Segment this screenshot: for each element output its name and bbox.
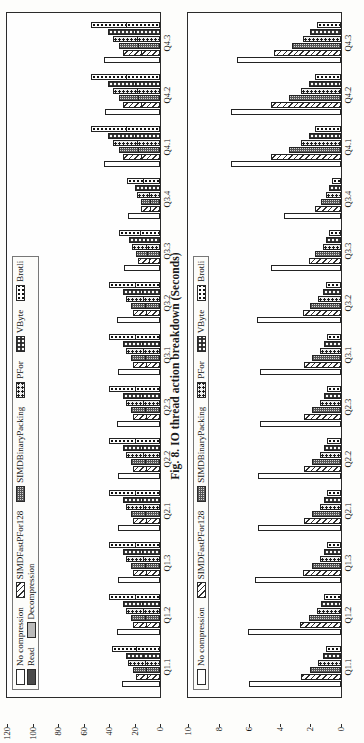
- bar[interactable]: [131, 460, 160, 466]
- bar[interactable]: [109, 491, 160, 497]
- legend-item[interactable]: No compression: [15, 607, 25, 685]
- bar[interactable]: [315, 75, 341, 81]
- bar[interactable]: [329, 231, 341, 237]
- bar[interactable]: [312, 460, 341, 466]
- bar[interactable]: [118, 578, 160, 584]
- bar[interactable]: [315, 207, 341, 213]
- legend-item[interactable]: PFor: [15, 361, 25, 398]
- bar[interactable]: [326, 283, 341, 289]
- bar[interactable]: [136, 675, 160, 681]
- bar[interactable]: [133, 668, 160, 674]
- bar[interactable]: [301, 141, 341, 147]
- bar[interactable]: [327, 439, 341, 445]
- bar[interactable]: [312, 408, 341, 414]
- bar[interactable]: [118, 474, 160, 480]
- bar[interactable]: [327, 543, 341, 549]
- bar[interactable]: [126, 349, 160, 355]
- bar[interactable]: [131, 564, 160, 570]
- bar[interactable]: [126, 453, 160, 459]
- bar[interactable]: [133, 571, 160, 577]
- bar[interactable]: [327, 387, 341, 393]
- legend-item[interactable]: SIMDFastPFor128: [196, 511, 206, 599]
- bar[interactable]: [131, 512, 160, 518]
- legend-item[interactable]: SIMDBinaryPacking: [196, 407, 206, 502]
- bar[interactable]: [301, 89, 341, 95]
- legend-item[interactable]: VByte: [15, 310, 25, 353]
- bar[interactable]: [131, 356, 160, 362]
- bar[interactable]: [91, 75, 160, 81]
- bar[interactable]: [123, 51, 160, 57]
- bar[interactable]: [127, 179, 160, 185]
- bar[interactable]: [292, 44, 341, 50]
- bar[interactable]: [303, 311, 341, 317]
- bar[interactable]: [91, 127, 160, 133]
- bar[interactable]: [326, 647, 341, 653]
- bar[interactable]: [309, 134, 341, 140]
- bar[interactable]: [327, 491, 341, 497]
- bar[interactable]: [131, 304, 160, 310]
- bar[interactable]: [258, 526, 341, 532]
- bar[interactable]: [320, 453, 341, 459]
- bar[interactable]: [129, 238, 160, 244]
- bar[interactable]: [119, 96, 160, 102]
- bar[interactable]: [271, 155, 341, 161]
- bar[interactable]: [113, 141, 160, 147]
- bar[interactable]: [128, 661, 160, 667]
- bar[interactable]: [248, 630, 341, 636]
- legend-item[interactable]: No compression: [196, 607, 206, 685]
- bar[interactable]: [108, 30, 160, 36]
- bar[interactable]: [104, 162, 160, 168]
- bar[interactable]: [128, 214, 160, 220]
- bar[interactable]: [112, 647, 160, 653]
- bar[interactable]: [124, 266, 160, 272]
- bar[interactable]: [109, 283, 160, 289]
- bar[interactable]: [315, 127, 341, 133]
- bar[interactable]: [323, 290, 341, 296]
- bar[interactable]: [117, 422, 160, 428]
- bar[interactable]: [271, 266, 341, 272]
- legend-item[interactable]: Brotli: [15, 261, 25, 301]
- bar[interactable]: [91, 23, 160, 29]
- bar[interactable]: [109, 387, 160, 393]
- bar[interactable]: [118, 526, 160, 532]
- bar[interactable]: [274, 51, 341, 57]
- bar[interactable]: [309, 82, 341, 88]
- bar[interactable]: [320, 505, 341, 511]
- bar[interactable]: [304, 467, 341, 473]
- bar[interactable]: [320, 349, 341, 355]
- bar[interactable]: [329, 186, 341, 192]
- bar[interactable]: [289, 148, 341, 154]
- bar[interactable]: [105, 110, 160, 116]
- bar[interactable]: [118, 370, 160, 376]
- bar[interactable]: [123, 550, 160, 556]
- bar[interactable]: [324, 550, 341, 556]
- bar[interactable]: [113, 37, 160, 43]
- bar[interactable]: [133, 519, 160, 525]
- bar[interactable]: [318, 297, 341, 303]
- bar[interactable]: [231, 162, 341, 168]
- bar[interactable]: [137, 193, 160, 199]
- bar[interactable]: [108, 82, 160, 88]
- bar[interactable]: [109, 543, 160, 549]
- bar[interactable]: [324, 498, 341, 504]
- bar[interactable]: [141, 207, 160, 213]
- bar[interactable]: [309, 259, 341, 265]
- legend-item[interactable]: Read: [26, 648, 36, 686]
- bar[interactable]: [320, 557, 341, 563]
- bar[interactable]: [117, 318, 160, 324]
- legend-item[interactable]: Brotli: [196, 261, 206, 301]
- bar[interactable]: [119, 231, 160, 237]
- bar[interactable]: [123, 446, 160, 452]
- bar[interactable]: [133, 311, 160, 317]
- bar[interactable]: [126, 505, 160, 511]
- bar[interactable]: [123, 394, 160, 400]
- bar[interactable]: [304, 415, 341, 421]
- bar[interactable]: [289, 96, 341, 102]
- bar[interactable]: [123, 498, 160, 504]
- bar[interactable]: [141, 200, 160, 206]
- bar[interactable]: [133, 363, 160, 369]
- bar[interactable]: [131, 616, 160, 622]
- bar[interactable]: [260, 370, 341, 376]
- bar[interactable]: [323, 654, 341, 660]
- bar[interactable]: [123, 155, 160, 161]
